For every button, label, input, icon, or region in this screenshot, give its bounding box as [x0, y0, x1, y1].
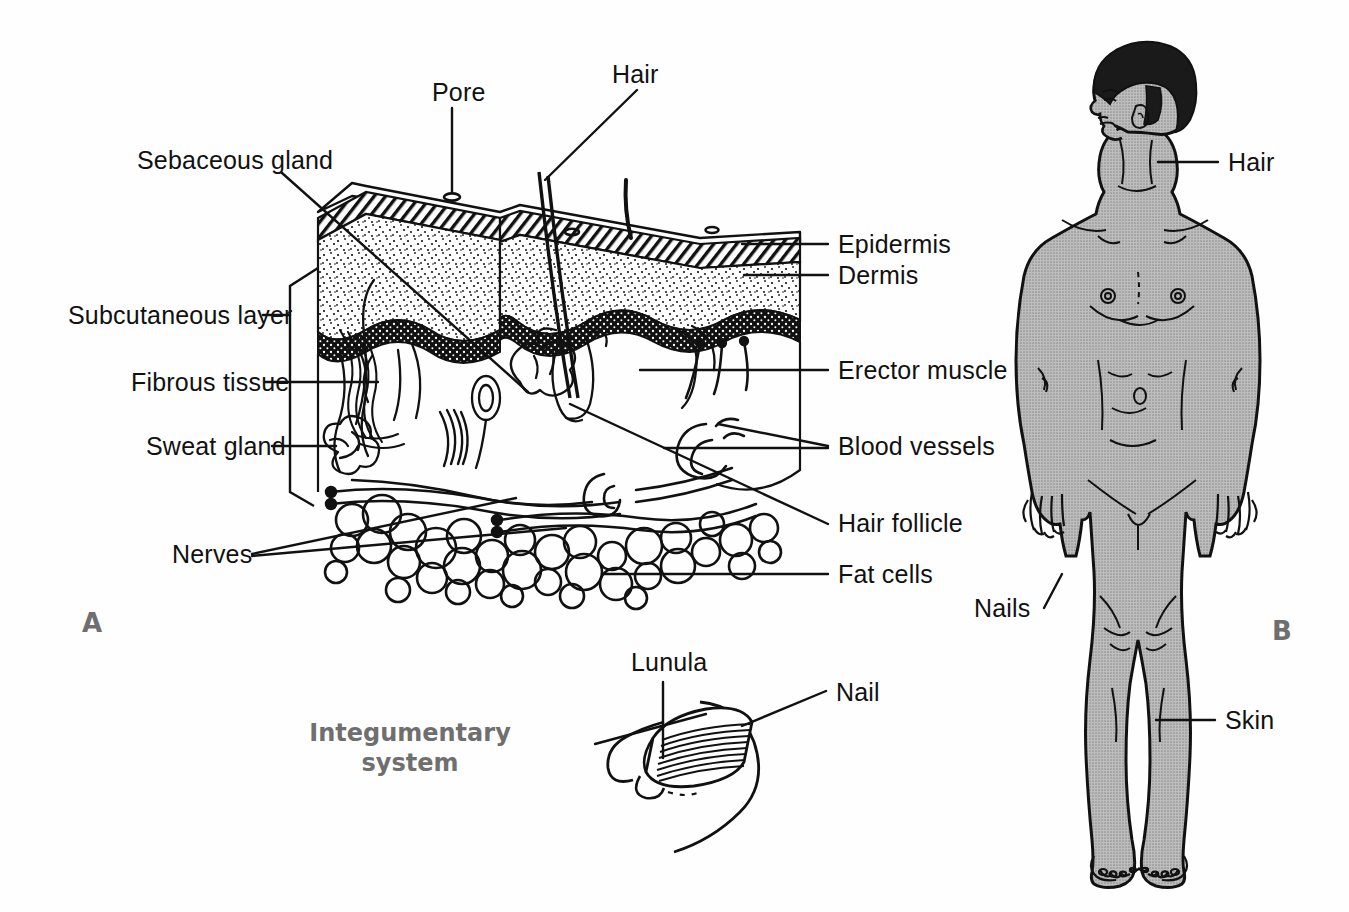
nail-detail	[608, 702, 759, 852]
label-skin-body: Skin	[1225, 708, 1274, 733]
label-subcutaneous-layer: Subcutaneous layer	[68, 303, 293, 328]
figure-title: Integumentary system	[280, 718, 540, 778]
label-blood-vessels: Blood vessels	[838, 434, 995, 459]
label-erector-muscle: Erector muscle	[838, 358, 1008, 383]
label-lunula: Lunula	[631, 650, 707, 675]
label-hair-body: Hair	[1228, 150, 1275, 175]
panel-letter-b: B	[1272, 616, 1292, 646]
label-fibrous-tissue: Fibrous tissue	[131, 370, 289, 395]
nerve-corpuscle	[472, 376, 500, 468]
body-figure	[1016, 42, 1260, 888]
skin-block	[290, 172, 800, 609]
label-nerves: Nerves	[172, 542, 252, 567]
label-sebaceous-gland: Sebaceous gland	[137, 148, 333, 173]
label-nail: Nail	[836, 680, 880, 705]
label-sweat-gland: Sweat gland	[146, 434, 286, 459]
label-fat-cells: Fat cells	[838, 562, 933, 587]
label-nails-body: Nails	[974, 596, 1031, 621]
label-dermis: Dermis	[838, 263, 918, 288]
label-epidermis: Epidermis	[838, 232, 951, 257]
panel-letter-a: A	[82, 608, 102, 638]
figure-canvas: Pore Hair Sebaceous gland Subcutaneous l…	[0, 0, 1349, 912]
fat-cells-shape	[325, 495, 781, 609]
label-hair-follicle: Hair follicle	[838, 511, 963, 536]
label-pore: Pore	[432, 80, 486, 105]
label-hair: Hair	[612, 62, 659, 87]
